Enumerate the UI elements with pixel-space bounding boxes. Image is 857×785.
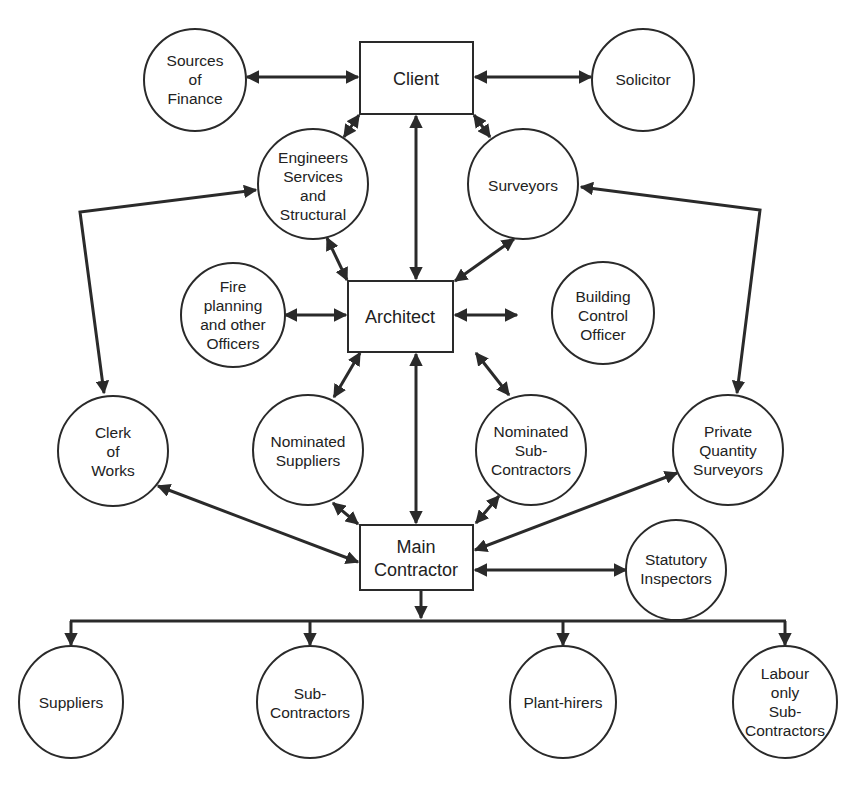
svg-text:of: of — [107, 443, 121, 460]
label-line: Inspectors — [640, 570, 712, 587]
svg-text:Sub-: Sub- — [294, 685, 327, 702]
svg-text:Nominated: Nominated — [271, 433, 346, 450]
label-line: Officers — [206, 335, 259, 352]
diagram-canvas: Client Architect Main Contractor Sources… — [0, 0, 857, 785]
svg-text:Surveyors: Surveyors — [488, 177, 558, 194]
label-line: planning — [204, 297, 263, 314]
client-box[interactable]: Client — [360, 42, 473, 114]
svg-text:Officer: Officer — [580, 326, 625, 343]
label-line: Nominated — [494, 423, 569, 440]
label-line: Services — [283, 168, 343, 185]
label-line: Contractors — [491, 461, 571, 478]
svg-text:Building: Building — [575, 288, 630, 305]
svg-text:Nominated: Nominated — [494, 423, 569, 440]
label-line: Labour — [761, 665, 809, 682]
link-architect-nom-subcontractors — [476, 353, 509, 395]
label-line: and — [300, 187, 326, 204]
main-contractor-label-line1: Main — [396, 537, 435, 557]
label-line: Plant-hirers — [523, 694, 602, 711]
svg-text:Finance: Finance — [167, 90, 222, 107]
label-line: Officer — [580, 326, 625, 343]
label-line: Surveyors — [488, 177, 558, 194]
svg-text:Suppliers: Suppliers — [276, 452, 341, 469]
architect-label: Architect — [365, 307, 435, 327]
label-line: Suppliers — [276, 452, 341, 469]
label-line: Suppliers — [39, 694, 104, 711]
sources-of-finance-node[interactable]: Sources of Finance — [144, 29, 246, 131]
label-line: Statutory — [645, 551, 707, 568]
label-line: and other — [200, 316, 266, 333]
svg-text:Quantity: Quantity — [699, 442, 757, 459]
private-qs-node[interactable]: Private Quantity Surveyors — [673, 395, 783, 505]
svg-text:Control: Control — [578, 307, 628, 324]
svg-text:Architect: Architect — [365, 307, 435, 327]
label-line: Finance — [167, 90, 222, 107]
svg-text:Main: Main — [396, 537, 435, 557]
svg-text:Engineers: Engineers — [278, 149, 348, 166]
suppliers-node[interactable]: Suppliers — [19, 646, 123, 758]
statutory-inspectors-node[interactable]: Statutory Inspectors — [626, 520, 726, 620]
label-line: Sources — [167, 52, 224, 69]
svg-text:Solicitor: Solicitor — [615, 71, 670, 88]
svg-text:Contractors: Contractors — [745, 722, 825, 739]
label-line: of — [189, 71, 203, 88]
label-line: Building — [575, 288, 630, 305]
svg-text:Contractor: Contractor — [374, 560, 458, 580]
surveyors-node[interactable]: Surveyors — [468, 129, 578, 239]
label-line: Works — [91, 462, 135, 479]
clerk-of-works-node[interactable]: Clerk of Works — [58, 396, 168, 506]
client-label: Client — [393, 69, 439, 89]
link-nom-suppliers-main-contractor — [333, 503, 358, 524]
plant-hirers-node[interactable]: Plant-hirers — [510, 646, 616, 758]
label-line: Control — [578, 307, 628, 324]
label-line: Contractors — [745, 722, 825, 739]
architect-box[interactable]: Architect — [348, 281, 453, 352]
building-control-node[interactable]: Building Control Officer — [552, 262, 654, 364]
svg-text:Works: Works — [91, 462, 135, 479]
nominated-subcontractors-node[interactable]: Nominated Sub- Contractors — [476, 395, 586, 505]
label-line: only — [771, 684, 800, 701]
nominated-suppliers-node[interactable]: Nominated Suppliers — [253, 395, 363, 505]
svg-text:Contractors: Contractors — [270, 704, 350, 721]
sub-contractors-node[interactable]: Sub- Contractors — [257, 646, 363, 758]
label-line: Clerk — [95, 424, 131, 441]
svg-text:Sub-: Sub- — [515, 442, 548, 459]
svg-text:Structural: Structural — [280, 206, 346, 223]
label-line: Sub- — [769, 703, 802, 720]
svg-text:Labour: Labour — [761, 665, 809, 682]
link-client-engineers — [344, 115, 359, 137]
svg-text:only: only — [771, 684, 800, 701]
label-line: Private — [704, 423, 752, 440]
svg-text:Client: Client — [393, 69, 439, 89]
main-contractor-box[interactable]: Main Contractor — [360, 525, 473, 590]
svg-text:and: and — [300, 187, 326, 204]
svg-text:Sub-: Sub- — [769, 703, 802, 720]
solicitor-node[interactable]: Solicitor — [592, 29, 694, 131]
svg-text:Surveyors: Surveyors — [693, 461, 763, 478]
label-line: Sub- — [515, 442, 548, 459]
svg-text:Suppliers: Suppliers — [39, 694, 104, 711]
svg-text:Sources: Sources — [167, 52, 224, 69]
svg-text:Inspectors: Inspectors — [640, 570, 712, 587]
svg-text:Statutory: Statutory — [645, 551, 707, 568]
fire-planning-node[interactable]: Fire planning and other Officers — [181, 263, 285, 367]
label-line: Surveyors — [693, 461, 763, 478]
labour-only-node[interactable]: Labour only Sub- Contractors — [733, 646, 837, 758]
label-line: Quantity — [699, 442, 757, 459]
engineers-node[interactable]: Engineers Services and Structural — [258, 129, 368, 239]
label-line: of — [107, 443, 121, 460]
svg-text:and other: and other — [200, 316, 266, 333]
svg-text:planning: planning — [204, 297, 263, 314]
svg-text:Contractors: Contractors — [491, 461, 571, 478]
svg-text:Fire: Fire — [220, 278, 247, 295]
svg-text:Plant-hirers: Plant-hirers — [523, 694, 602, 711]
label-line: Nominated — [271, 433, 346, 450]
main-contractor-label-line2: Contractor — [374, 560, 458, 580]
link-nom-subcontractors-main-contractor — [476, 496, 499, 523]
label-line: Contractors — [270, 704, 350, 721]
svg-text:Private: Private — [704, 423, 752, 440]
label-line: Solicitor — [615, 71, 670, 88]
svg-text:Services: Services — [283, 168, 343, 185]
link-client-surveyors — [474, 115, 490, 137]
svg-text:Officers: Officers — [206, 335, 259, 352]
